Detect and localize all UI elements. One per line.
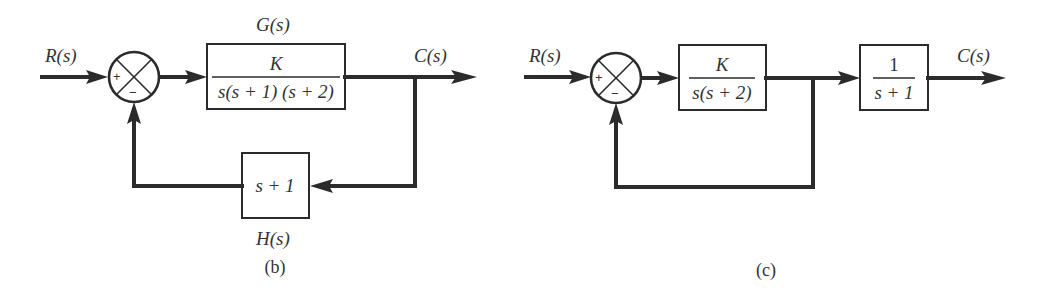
- plus-sign-c: +: [595, 70, 603, 85]
- forward-numerator-c: K: [715, 54, 730, 75]
- forward-block-name-b: G(s): [256, 14, 290, 36]
- block-diagrams-canvas: R(s) + − G(s) K s(s + 1) (s + 2) C(s): [0, 0, 1050, 304]
- caption-c: (c): [756, 260, 776, 281]
- forward-block-b: K s(s + 1) (s + 2): [207, 44, 345, 109]
- feedback-block-b: s + 1: [242, 153, 309, 218]
- forward-block-c: K s(s + 2): [679, 45, 766, 110]
- diagram-b: R(s) + − G(s) K s(s + 1) (s + 2) C(s): [42, 14, 477, 278]
- output-numerator-c: 1: [889, 54, 899, 75]
- diagram-c: R(s) + − K s(s + 2) 1 s + 1: [526, 45, 1006, 281]
- output-block-c: 1 s + 1: [860, 45, 928, 110]
- forward-denominator-c: s(s + 2): [692, 82, 751, 104]
- input-label-b: R(s): [44, 45, 77, 67]
- forward-numerator-b: K: [269, 53, 284, 74]
- feedback-return-line-b: [134, 118, 242, 186]
- output-label-b: C(s): [414, 45, 447, 67]
- plus-sign-b: +: [113, 69, 121, 84]
- output-label-c: C(s): [957, 45, 990, 67]
- minus-sign-b: −: [129, 85, 137, 100]
- feedback-block-name-b: H(s): [255, 228, 290, 250]
- input-label-c: R(s): [528, 45, 561, 67]
- summing-junction-c: + −: [591, 53, 641, 103]
- forward-denominator-b: s(s + 1) (s + 2): [218, 81, 334, 103]
- summing-junction-b: + −: [109, 52, 159, 102]
- feedback-expression-b: s + 1: [255, 175, 294, 196]
- minus-sign-c: −: [611, 86, 619, 101]
- output-denominator-c: s + 1: [874, 82, 913, 103]
- caption-b: (b): [265, 257, 286, 278]
